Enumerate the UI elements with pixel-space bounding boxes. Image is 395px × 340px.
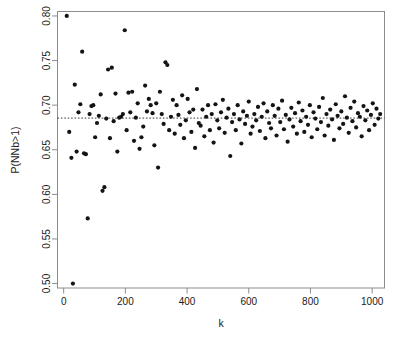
data-point [193, 146, 197, 150]
data-point [104, 116, 108, 120]
x-tick-label: 0 [61, 296, 67, 307]
data-point [347, 131, 351, 135]
data-point [258, 129, 262, 133]
data-point [75, 149, 79, 153]
x-tick-label: 1000 [361, 296, 384, 307]
data-point [239, 141, 243, 145]
data-point [99, 92, 103, 96]
y-tick-label: 0.55 [41, 229, 52, 249]
data-point [69, 156, 73, 160]
plot-canvas: 0.500.550.600.650.700.750.80 02004006008… [0, 0, 395, 340]
data-point [178, 123, 182, 127]
data-point [339, 109, 343, 113]
data-point [297, 100, 301, 104]
data-point [334, 102, 338, 106]
data-point [113, 91, 117, 95]
data-point [150, 111, 154, 115]
data-point [106, 67, 110, 71]
data-point [195, 87, 199, 91]
data-point [265, 109, 269, 113]
data-point [319, 120, 323, 124]
data-point [162, 122, 166, 126]
data-point [261, 101, 265, 105]
data-point [276, 107, 280, 111]
data-point [289, 106, 293, 110]
data-point [73, 83, 77, 87]
data-point [360, 134, 364, 138]
data-point [358, 115, 362, 119]
data-point [71, 281, 75, 285]
data-point [365, 108, 369, 112]
data-point [243, 122, 247, 126]
data-point [186, 97, 190, 101]
y-tick-label: 0.80 [41, 6, 52, 26]
data-point [336, 114, 340, 118]
data-point [97, 114, 101, 118]
data-point [324, 112, 328, 116]
data-point [245, 114, 249, 118]
data-point [204, 115, 208, 119]
data-point [154, 101, 158, 105]
data-point [328, 108, 332, 112]
data-point [311, 110, 315, 114]
data-point [341, 122, 345, 126]
data-point [169, 115, 173, 119]
data-point [126, 91, 130, 95]
data-point [139, 135, 143, 139]
data-point [280, 99, 284, 103]
data-point [278, 120, 282, 124]
data-point [76, 110, 80, 114]
data-point [350, 119, 354, 123]
data-point [112, 119, 116, 123]
scatter-plot-figure: 0.500.550.600.650.700.750.80 02004006008… [0, 0, 395, 340]
data-point [230, 120, 234, 124]
x-tick-label: 800 [302, 296, 319, 307]
data-point [247, 99, 251, 103]
data-point [167, 128, 171, 132]
data-point [80, 50, 84, 54]
data-point [128, 110, 132, 114]
data-point [332, 138, 336, 142]
y-tick-label: 0.60 [41, 184, 52, 204]
data-point [174, 103, 178, 107]
data-point [213, 102, 217, 106]
data-point [221, 98, 225, 102]
data-point [273, 114, 277, 118]
y-tick-label: 0.50 [41, 273, 52, 293]
data-point [93, 135, 97, 139]
data-point [232, 112, 236, 116]
data-point [348, 106, 352, 110]
data-point [295, 132, 299, 136]
data-point [313, 116, 317, 120]
data-point [210, 112, 214, 116]
data-point [141, 124, 145, 128]
data-point [306, 123, 310, 127]
data-point [191, 108, 195, 112]
data-point [115, 149, 119, 153]
data-point [260, 115, 264, 119]
data-point [254, 118, 258, 122]
data-point [282, 127, 286, 131]
data-point [160, 112, 164, 116]
data-point [298, 119, 302, 123]
data-point [317, 105, 321, 109]
data-point [291, 124, 295, 128]
data-point [102, 185, 106, 189]
data-point [226, 107, 230, 111]
data-point [223, 131, 227, 135]
data-point [136, 101, 140, 105]
data-point [156, 165, 160, 169]
data-point [236, 103, 240, 107]
data-point [352, 99, 356, 103]
data-point [241, 109, 245, 113]
data-point [345, 116, 349, 120]
data-point [308, 103, 312, 107]
data-point [252, 112, 256, 116]
data-point [123, 28, 127, 32]
data-point [269, 126, 273, 130]
data-point [202, 134, 206, 138]
data-point [234, 128, 238, 132]
data-point [274, 133, 278, 137]
data-point [249, 132, 253, 136]
data-point [147, 97, 151, 101]
